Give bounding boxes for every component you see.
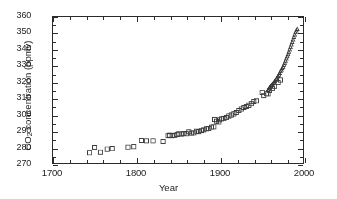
y-axis-tick [53,165,58,166]
x-axis-tick [137,158,138,163]
y-axis-tick [298,165,303,166]
x-axis-tick [103,17,104,20]
y-axis-tick [300,75,303,76]
y-axis-tick [53,116,58,117]
y-axis-tick [53,75,56,76]
x-axis-tick [204,160,205,163]
y-axis-tick [298,66,303,67]
y-axis-tick [53,124,56,125]
x-axis-tick [53,158,54,163]
y-axis-tick [300,91,303,92]
scatter-plot-canvas [53,17,303,163]
x-axis-tick [288,17,289,20]
x-axis-tick [204,17,205,20]
y-axis-tick [298,149,303,150]
y-axis-tick [298,83,303,84]
y-axis-tick [300,140,303,141]
y-axis-tick [53,33,58,34]
x-tick-label: 2000 [284,168,324,178]
x-axis-tick [288,160,289,163]
x-axis-tick [187,160,188,163]
x-axis-tick [238,17,239,20]
plot-area [52,16,304,164]
x-axis-tick [187,17,188,20]
y-axis-tick [53,149,58,150]
y-axis-tick [53,50,58,51]
x-axis-tick [53,17,54,22]
y-axis-tick [53,99,58,100]
co2-concentration-chart: 2702802903003103203303403503601700180019… [0,0,337,199]
x-axis-tick [238,160,239,163]
y-axis-tick [298,99,303,100]
y-axis-tick [298,33,303,34]
x-axis-tick [120,160,121,163]
y-axis-tick [53,66,58,67]
x-tick-label: 1700 [32,168,72,178]
x-axis-tick [171,160,172,163]
y-axis-tick [298,17,303,18]
x-tick-label: 1800 [116,168,156,178]
x-axis-tick [271,160,272,163]
x-axis-tick [154,160,155,163]
y-axis-tick [298,50,303,51]
y-axis-tick [53,58,56,59]
x-axis-tick [221,17,222,22]
y-axis-tick [53,25,56,26]
x-axis-tick [87,17,88,20]
x-axis-tick [221,158,222,163]
y-axis-tick [300,107,303,108]
x-tick-label: 1900 [200,168,240,178]
x-axis-tick [171,17,172,20]
x-axis-title: Year [0,182,337,193]
x-axis-tick [305,17,306,22]
x-axis-tick [70,17,71,20]
y-axis-title: CO2 concentration (ppmv) [22,16,33,176]
x-axis-tick [70,160,71,163]
x-axis-tick [305,158,306,163]
x-axis-tick [255,160,256,163]
y-axis-tick [300,58,303,59]
x-axis-tick [137,17,138,22]
y-axis-tick [53,91,56,92]
y-axis-tick [53,107,56,108]
y-axis-tick [298,116,303,117]
y-axis-tick [300,124,303,125]
y-axis-tick [53,83,58,84]
y-axis-tick [300,42,303,43]
y-axis-tick [53,132,58,133]
x-axis-tick [271,17,272,20]
x-axis-tick [255,17,256,20]
x-axis-tick [87,160,88,163]
y-axis-tick [300,157,303,158]
y-axis-tick [53,42,56,43]
y-axis-tick [300,25,303,26]
x-axis-tick [103,160,104,163]
y-axis-tick [298,132,303,133]
x-axis-tick [120,17,121,20]
x-axis-tick [154,17,155,20]
y-axis-tick [53,140,56,141]
